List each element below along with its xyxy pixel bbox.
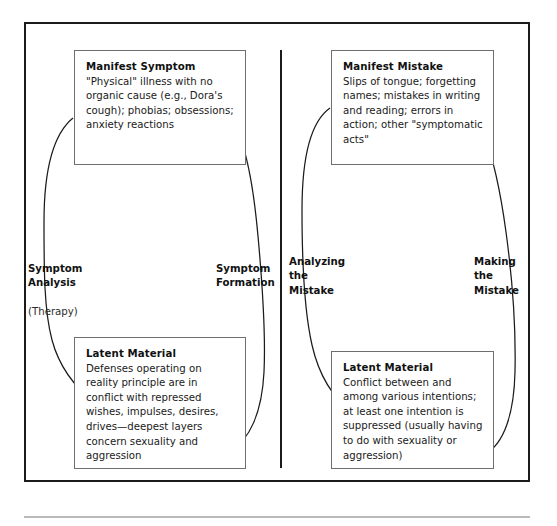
- label-symptom-analysis-main: Symptom Analysis: [28, 263, 82, 289]
- figure-diagram: Manifest Symptom "Physical" illness with…: [0, 0, 557, 526]
- label-symptom-analysis: Symptom Analysis (Therapy): [28, 247, 82, 320]
- box-latent-material-right-body: Conflict between and among various inten…: [343, 376, 483, 464]
- box-latent-material-right-title: Latent Material: [343, 361, 483, 376]
- footer-rule: [24, 516, 530, 518]
- label-analyzing-the-mistake: Analyzing the Mistake: [289, 240, 345, 298]
- label-symptom-formation: Symptom Formation: [216, 247, 275, 291]
- box-latent-material-left-body: Defenses operating on reality principle …: [86, 362, 235, 464]
- label-analyzing-the-mistake-main: Analyzing the Mistake: [289, 256, 345, 296]
- label-symptom-analysis-sub: (Therapy): [28, 306, 78, 317]
- box-manifest-symptom: Manifest Symptom "Physical" illness with…: [74, 50, 246, 165]
- box-latent-material-left: Latent Material Defenses operating on re…: [74, 337, 246, 469]
- label-making-the-mistake-main: Making the Mistake: [474, 256, 519, 296]
- box-manifest-mistake-title: Manifest Mistake: [343, 60, 483, 75]
- box-latent-material-right: Latent Material Conflict between and amo…: [331, 351, 494, 469]
- box-latent-material-left-title: Latent Material: [86, 347, 235, 362]
- box-manifest-mistake-body: Slips of tongue; forgetting names; mista…: [343, 75, 483, 148]
- box-manifest-symptom-body: "Physical" illness with no organic cause…: [86, 75, 235, 133]
- label-making-the-mistake: Making the Mistake: [474, 240, 519, 298]
- box-manifest-symptom-title: Manifest Symptom: [86, 60, 235, 75]
- label-symptom-formation-main: Symptom Formation: [216, 263, 275, 289]
- box-manifest-mistake: Manifest Mistake Slips of tongue; forget…: [331, 50, 494, 165]
- panel-divider: [280, 50, 282, 468]
